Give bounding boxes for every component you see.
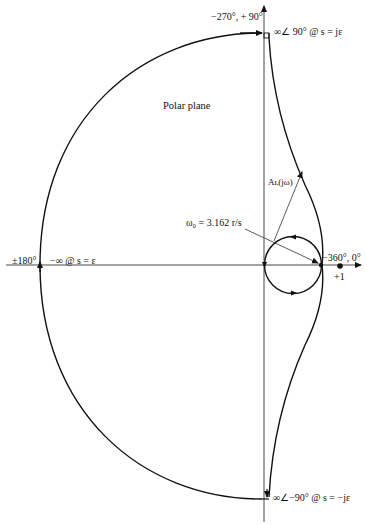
right-axis-label: −360°, 0° bbox=[322, 253, 361, 263]
top-axis-label: −270°, + 90° bbox=[211, 12, 263, 22]
nyquist-curve-right bbox=[269, 38, 323, 497]
critical-point bbox=[337, 263, 343, 269]
crossover-label: ω₀ = 3.162 r/s bbox=[186, 218, 242, 228]
top-right-label: ∞∠ 90° @ s = jε bbox=[274, 27, 342, 37]
top-corner-marker bbox=[264, 33, 269, 38]
bottom-right-label: ∞∠−90° @ s = −jε bbox=[273, 493, 350, 503]
diagram-title: Polar plane bbox=[163, 101, 211, 112]
plus-one-label: +1 bbox=[334, 272, 345, 282]
crossover-point bbox=[319, 263, 323, 267]
left-axis-label: ±180° bbox=[12, 256, 37, 266]
infinite-arc bbox=[40, 33, 262, 499]
loop-arrow-top bbox=[290, 235, 296, 240]
crossover-pointer bbox=[245, 229, 318, 263]
left-inf-label: −∞ @ s = ε bbox=[50, 256, 96, 266]
magnitude-label: Aʟ(jω) bbox=[268, 178, 293, 187]
loop-arrow-bottom bbox=[291, 291, 297, 296]
